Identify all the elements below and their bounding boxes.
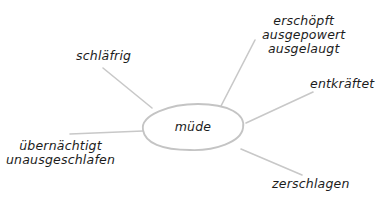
center-node-label: müde	[175, 119, 212, 134]
branch-label: ausgelaugt	[262, 42, 345, 56]
branch-label: erschöpft	[262, 14, 345, 28]
branch-label: unausgeschlafen	[6, 153, 115, 167]
branch-erschoepft: erschöpft ausgepowert ausgelaugt	[262, 14, 345, 56]
branch-label: entkräftet	[310, 77, 374, 91]
branch-label: schläfrig	[76, 49, 131, 63]
branch-label: zerschlagen	[272, 177, 350, 191]
connector-erschoepft	[221, 40, 255, 106]
connector-uebernaechtigt	[70, 131, 143, 134]
mindmap-canvas: müde schläfrig erschöpft ausgepowert aus…	[0, 0, 390, 203]
connector-entkraeftet	[246, 92, 313, 123]
branch-label: ausgepowert	[262, 28, 345, 42]
branch-schlaefrig: schläfrig	[76, 49, 131, 63]
connector-schlaefrig	[103, 68, 152, 108]
branch-label: übernächtigt	[6, 139, 115, 153]
branch-entkraeftet: entkräftet	[310, 77, 374, 91]
connector-zerschlagen	[241, 149, 302, 175]
branch-zerschlagen: zerschlagen	[272, 177, 350, 191]
branch-uebernaechtigt: übernächtigt unausgeschlafen	[6, 139, 115, 167]
